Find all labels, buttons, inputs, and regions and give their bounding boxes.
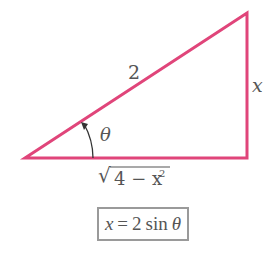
right-triangle: [25, 13, 247, 158]
hypotenuse-label: 2: [128, 61, 140, 83]
svg-text:√: √: [98, 163, 111, 187]
angle-arc: [84, 124, 93, 158]
svg-text:2: 2: [159, 168, 165, 179]
formula-argument: θ: [172, 213, 181, 235]
formula-lhs: x: [105, 213, 113, 235]
formula-function: sin: [146, 213, 168, 235]
svg-text:4 − x: 4 − x: [114, 168, 162, 189]
opposite-label: x: [252, 74, 263, 96]
formula-box: x = 2 sin θ: [97, 207, 189, 241]
adjacent-label: √ 4 − x 2: [98, 163, 170, 189]
formula-equals: =: [117, 213, 128, 235]
formula-coefficient: 2: [132, 213, 142, 235]
angle-label: θ: [100, 124, 111, 145]
